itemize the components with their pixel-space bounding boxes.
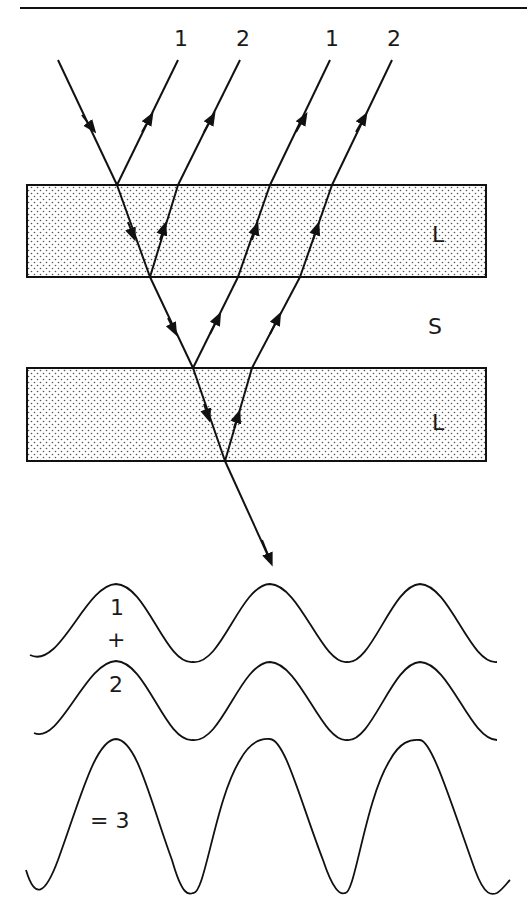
wave-2 (34, 661, 497, 740)
ray-label-1a: 1 (174, 26, 188, 51)
wave-2-label: 2 (109, 672, 123, 697)
ray-label-1b: 1 (325, 26, 339, 51)
interference-diagram: 1 2 1 2 L S L 1 + 2 = 3 (0, 0, 527, 915)
upper-layer-label: L (432, 222, 445, 247)
ray-label-2a: 2 (236, 26, 250, 51)
result-label: = 3 (90, 808, 129, 833)
wave-1-label: 1 (110, 595, 124, 620)
wave-1 (30, 584, 497, 662)
ray-label-2b: 2 (387, 26, 401, 51)
reflected-ray-1a (117, 60, 178, 185)
lower-layer-label: L (432, 410, 445, 435)
lower-layer-slab (27, 368, 486, 461)
incident-ray (58, 60, 270, 560)
upper-layer-slab (27, 185, 486, 277)
plus-sign: + (107, 627, 125, 652)
spacer-label: S (428, 314, 442, 339)
